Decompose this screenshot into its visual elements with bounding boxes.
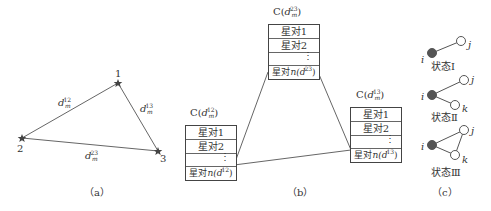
hollow-node-icon [460, 126, 469, 135]
node-label-i: i [421, 92, 424, 102]
box-header-23: C(d23m) [273, 6, 301, 17]
table-row-last: 星对n(d23) [269, 66, 319, 79]
caption-c: （c） [432, 188, 458, 198]
hollow-node-icon [460, 76, 469, 85]
table-row: 星对1 [351, 108, 401, 122]
star-pair-table-13: 星对1 星对2 ⋮ 星对n(d13) [350, 107, 402, 163]
caption-b: （b） [287, 188, 313, 198]
table-row-last: 星对n(d12) [186, 167, 236, 180]
box-connectors [234, 72, 351, 165]
state-label-3: 状态Ⅲ [431, 168, 461, 178]
diagram-canvas [0, 0, 491, 211]
star-label-3: 3 [160, 154, 166, 164]
caption-a: （a） [84, 188, 110, 198]
edge-label-13: d13m [140, 104, 153, 114]
edge-label-23: d23m [85, 151, 98, 161]
filled-node-icon [428, 91, 437, 100]
hollow-node-icon [451, 151, 460, 160]
filled-node-icon [428, 49, 437, 58]
star-icon [18, 134, 27, 142]
state-1-graph [428, 37, 466, 58]
box-header-13: C(d13m) [356, 89, 384, 100]
star-label-2: 2 [17, 144, 23, 154]
table-row-last: 星对n(d13) [351, 149, 401, 162]
hollow-node-icon [451, 101, 460, 110]
table-row: 星对1 [186, 126, 236, 140]
star-pair-table-12: 星对1 星对2 ⋮ 星对n(d12) [185, 125, 237, 181]
star-icons [18, 79, 163, 155]
node-label-i: i [421, 55, 424, 65]
node-label-j: j [468, 40, 471, 50]
filled-node-icon [428, 141, 437, 150]
star-pair-table-23: 星对1 星对2 ⋮ 星对n(d23) [268, 24, 320, 80]
node-label-k: k [462, 104, 468, 114]
node-label-j: j [471, 75, 474, 85]
node-label-i: i [421, 142, 424, 152]
star-icon [114, 79, 123, 87]
state-label-2: 状态Ⅱ [431, 113, 458, 123]
star-label-1: 1 [115, 69, 121, 79]
hollow-node-icon [457, 37, 466, 46]
triangle-edges [22, 83, 158, 151]
node-label-j: j [471, 126, 474, 136]
edge-label-12: d12m [58, 98, 71, 108]
table-row: 星对1 [269, 25, 319, 39]
node-label-k: k [462, 155, 468, 165]
box-header-12: C(d12m) [190, 107, 218, 118]
state-label-1: 状态Ⅰ [431, 62, 455, 72]
